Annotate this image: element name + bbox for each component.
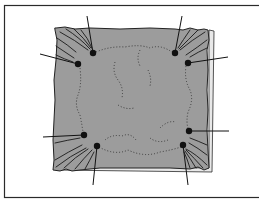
fabric-square (53, 27, 214, 172)
pin-dot (172, 50, 178, 56)
fabric-body (53, 27, 209, 171)
pin-dot (75, 61, 81, 67)
pin-dot (180, 142, 186, 148)
pin-dot (81, 132, 87, 138)
pin-dot (94, 143, 100, 149)
pin-dot (185, 60, 191, 66)
fabric-pinning-diagram (0, 0, 259, 202)
pin-dot (90, 50, 96, 56)
pin-dot (186, 128, 192, 134)
